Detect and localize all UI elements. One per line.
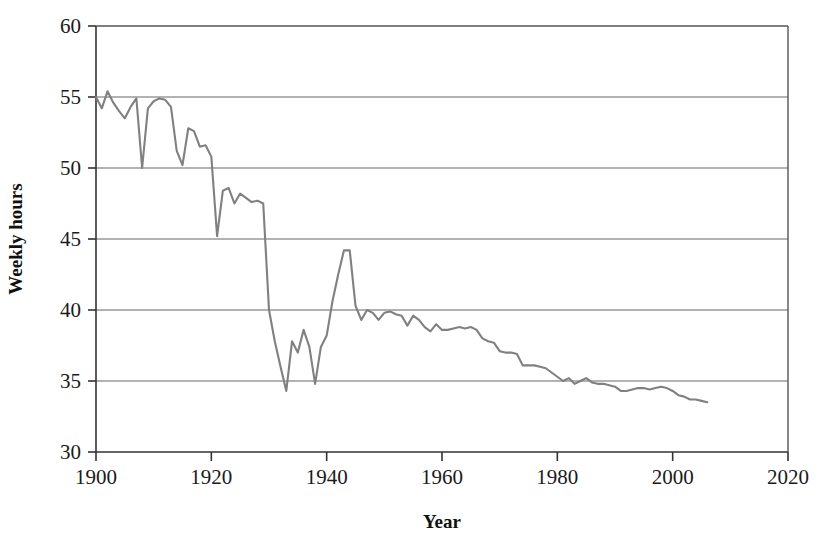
x-tick-label: 2020 <box>767 465 809 489</box>
y-tick-label: 45 <box>60 227 81 251</box>
y-tick-label: 35 <box>60 369 81 393</box>
y-tick-label: 30 <box>60 440 81 464</box>
x-tick-label: 1900 <box>75 465 117 489</box>
x-tick-label: 1960 <box>421 465 463 489</box>
gridlines <box>96 97 788 381</box>
x-axis-title: Year <box>423 511 462 532</box>
x-tick-label: 1940 <box>306 465 348 489</box>
line-chart: 30354045505560 1900192019401960198020002… <box>0 0 827 541</box>
y-tick-label: 40 <box>60 298 81 322</box>
y-axis-title: Weekly hours <box>5 183 26 294</box>
x-tick-label: 1920 <box>190 465 232 489</box>
y-axis-ticks <box>88 26 96 452</box>
chart-container: 30354045505560 1900192019401960198020002… <box>0 0 827 541</box>
y-axis-tick-labels: 30354045505560 <box>60 14 81 464</box>
y-tick-label: 60 <box>60 14 81 38</box>
x-tick-label: 1980 <box>536 465 578 489</box>
y-tick-label: 50 <box>60 156 81 180</box>
data-series-line <box>96 91 707 402</box>
y-tick-label: 55 <box>60 85 81 109</box>
x-axis-tick-labels: 1900192019401960198020002020 <box>75 465 809 489</box>
x-tick-label: 2000 <box>652 465 694 489</box>
x-axis-ticks <box>96 452 788 461</box>
